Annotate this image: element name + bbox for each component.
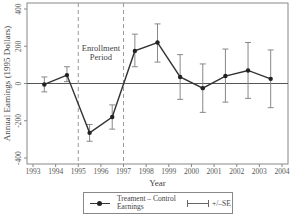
data-point bbox=[65, 73, 69, 77]
enrollment-period-label: Period bbox=[90, 52, 113, 62]
legend-se-label: +/–SE bbox=[212, 199, 231, 208]
x-tick-label: 2000 bbox=[184, 167, 199, 176]
x-tick-label: 1999 bbox=[161, 167, 176, 176]
data-point bbox=[178, 75, 182, 79]
chart-legend: Treament – Control Earnings +/–SE bbox=[83, 192, 233, 214]
legend-marker-icon bbox=[97, 201, 102, 206]
legend-errorbar-line bbox=[187, 203, 209, 204]
legend-series-label: Treament – Control Earnings bbox=[117, 195, 179, 211]
x-tick-label: 2002 bbox=[229, 167, 244, 176]
data-point bbox=[42, 82, 46, 86]
x-tick-label: 2004 bbox=[275, 167, 290, 176]
y-tick-label: 400 bbox=[14, 3, 23, 15]
data-point bbox=[110, 115, 114, 119]
x-tick-label: 1995 bbox=[71, 167, 86, 176]
x-tick-label: 1996 bbox=[93, 167, 108, 176]
x-tick-label: 1994 bbox=[48, 167, 63, 176]
legend-errorbar-cap bbox=[208, 200, 209, 207]
y-tick-label: 0 bbox=[14, 81, 23, 85]
y-tick-label: -400 bbox=[14, 151, 23, 165]
y-tick-label: 200 bbox=[14, 40, 23, 52]
x-tick-label: 1998 bbox=[139, 167, 154, 176]
data-point bbox=[155, 40, 159, 44]
x-tick-label: 2003 bbox=[252, 167, 267, 176]
data-point bbox=[268, 77, 272, 81]
x-axis-title: Year bbox=[149, 178, 166, 188]
x-tick-label: 2001 bbox=[207, 167, 222, 176]
data-point bbox=[223, 74, 227, 78]
y-tick-label: -200 bbox=[14, 114, 23, 128]
earnings-chart: EnrollmentPeriod199319941995199619971998… bbox=[0, 0, 291, 221]
y-axis-title: Annual Earnings (1995 Dollars) bbox=[2, 26, 12, 142]
x-tick-label: 1993 bbox=[26, 167, 41, 176]
data-point bbox=[87, 131, 91, 135]
x-tick-label: 1997 bbox=[116, 167, 131, 176]
data-point bbox=[246, 68, 250, 72]
data-point bbox=[133, 49, 137, 53]
data-point bbox=[201, 86, 205, 90]
